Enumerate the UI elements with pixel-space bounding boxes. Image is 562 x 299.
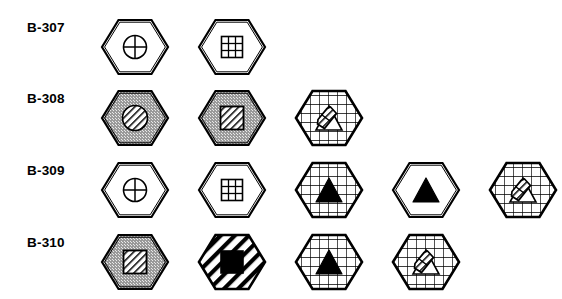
hexagon-outline-grid-square — [195, 15, 269, 79]
figure-cell — [86, 12, 183, 82]
hexagon-grid-hatched-arrow — [292, 86, 366, 150]
figure-cell — [280, 155, 377, 225]
row-label: B-307 — [27, 20, 65, 35]
hexagon-outline-grid-square — [195, 158, 269, 222]
row-label: B-309 — [27, 163, 65, 178]
figure-row: B-307 — [0, 12, 554, 82]
figure-cell — [86, 83, 183, 153]
hexagon-grid-hatched-arrow — [389, 230, 463, 294]
figure-cell — [183, 227, 280, 297]
hexagon-outline-circle-cross — [98, 15, 172, 79]
figure-cell — [377, 155, 474, 225]
figure-cells — [86, 83, 377, 153]
figure-cell — [183, 12, 280, 82]
figure-cell — [280, 83, 377, 153]
figure-cell — [183, 155, 280, 225]
figure-cells — [86, 155, 562, 225]
hexagon-outline-black-triangle — [389, 158, 463, 222]
hexagon-grid-black-triangle — [292, 230, 366, 294]
hexagon-gray-hatched-square — [98, 230, 172, 294]
figure-cell — [86, 155, 183, 225]
figure-cells — [86, 12, 280, 82]
figure-row: B-309 — [0, 155, 554, 225]
hexagon-grid-black-triangle — [292, 158, 366, 222]
hexagon-outline-circle-cross — [98, 158, 172, 222]
hexagon-gray-hatched-circle — [98, 86, 172, 150]
row-label: B-308 — [27, 91, 65, 106]
figure-cell — [377, 227, 474, 297]
figure-cell — [474, 155, 562, 225]
hexagon-grid-hatched-arrow — [486, 158, 560, 222]
figure-row: B-310 — [0, 227, 554, 297]
figure-cells — [86, 227, 474, 297]
row-label: B-310 — [27, 235, 65, 250]
figure-cell — [183, 83, 280, 153]
figure-cell — [86, 227, 183, 297]
hexagon-gray-hatched-square — [195, 86, 269, 150]
hexagon-diagonal-stripes-black-square — [195, 230, 269, 294]
figure-cell — [280, 227, 377, 297]
figure-row: B-308 — [0, 83, 554, 153]
